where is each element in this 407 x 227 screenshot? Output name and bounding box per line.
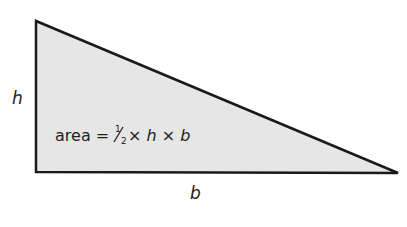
fraction-denominator: 2 xyxy=(121,136,127,146)
svg-text:× h × b: × h × b xyxy=(128,126,190,145)
formula-var-b: b xyxy=(180,126,190,145)
formula-prefix: area = xyxy=(55,126,109,145)
times-sign-1: × xyxy=(128,126,147,145)
svg-text:area =: area = xyxy=(55,126,109,145)
formula-var-h: h xyxy=(147,126,157,145)
base-label: b xyxy=(190,183,201,203)
triangle-area-diagram: h b area = 1 2 × h × b xyxy=(0,0,407,227)
times-sign-2: × xyxy=(162,126,181,145)
height-label: h xyxy=(12,88,23,108)
right-triangle xyxy=(36,21,398,173)
